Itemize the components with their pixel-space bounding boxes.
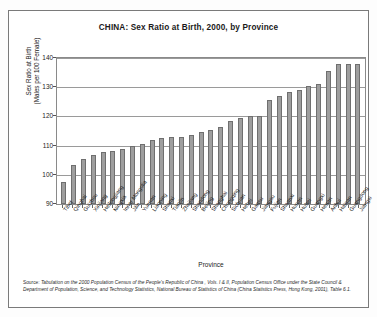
bar [336, 64, 341, 204]
x-axis-label-item: Yunnan [139, 207, 144, 257]
x-axis-label-item: Tianjin [169, 207, 174, 257]
y-axis-title: Sex Ratio at Birth (Males per 100 Female… [25, 11, 41, 131]
x-axis-label-item: Hebei [238, 207, 243, 257]
bar [61, 182, 66, 204]
bar [267, 100, 272, 204]
x-axis-label-item: Ningxia [110, 207, 115, 257]
x-axis-label-item: Shanghai [208, 207, 213, 257]
x-axis-label-item: Jilin [129, 207, 134, 257]
y-axis-title-line1: Sex Ratio at Birth [25, 11, 33, 131]
y-tick-mark-130 [53, 86, 56, 87]
bar [287, 92, 292, 204]
y-tick-mark-100 [53, 174, 56, 175]
x-axis-label-item: Beijing [198, 207, 203, 257]
bar [297, 90, 302, 204]
y-tick-label-90: 90 [40, 200, 53, 207]
x-axis-label-item: Zhejiang [179, 207, 184, 257]
y-tick-label-140: 140 [40, 54, 53, 61]
y-tick-label-110: 110 [40, 141, 53, 148]
chart-title: CHINA: Sex Ratio at Birth, 2000, by Prov… [9, 23, 368, 32]
x-axis-label-item: Jiangxi [356, 207, 361, 257]
y-tick-mark-90 [53, 203, 56, 204]
x-axis-label-item: Chongqing [218, 207, 223, 257]
x-axis-label-item: Sichuan [228, 207, 233, 257]
x-axis-label-item: Xinjiang [90, 207, 95, 257]
bar [355, 64, 360, 204]
bar [277, 96, 282, 204]
x-axis-label-item: Guangxi [307, 207, 312, 257]
x-axis-label-item: Hunan [287, 207, 292, 257]
source-note: Source: Tabulation on the 2000 Populatio… [23, 279, 359, 293]
y-tick-mark-120 [53, 115, 56, 116]
x-axis-label-item: Inner Mongolia [120, 207, 125, 257]
figure-frame: CHINA: Sex Ratio at Birth, 2000, by Prov… [8, 10, 369, 308]
source-label: Source: [23, 280, 40, 285]
x-axis-label-item: Guangdong [346, 207, 351, 257]
x-axis-label-item: Gansu [248, 207, 253, 257]
bar [248, 116, 253, 204]
bar [257, 116, 262, 204]
screenshot-root: CHINA: Sex Ratio at Birth, 2000, by Prov… [0, 0, 377, 317]
x-axis-title: Province [56, 261, 366, 268]
x-axis-label-item: Hainan [336, 207, 341, 257]
x-axis-label-item: Heilongjiang [100, 207, 105, 257]
x-axis-label-item: Tibet [60, 207, 65, 257]
bar [71, 165, 76, 204]
bar [316, 84, 321, 204]
plot-area [56, 57, 366, 205]
bar [140, 144, 145, 204]
x-axis-label-item: Shandong [189, 207, 194, 257]
x-axis-label-item: Hubei [297, 207, 302, 257]
y-tick-mark-140 [53, 57, 56, 58]
x-axis-label-item: Guizhou [80, 207, 85, 257]
y-tick-mark-110 [53, 145, 56, 146]
y-tick-label-120: 120 [40, 112, 53, 119]
y-tick-label-100: 100 [40, 170, 53, 177]
bar [346, 64, 351, 204]
bar [326, 71, 331, 204]
x-axis-labels: TibetQinghaiGuizhouXinjiangHeilongjiangN… [56, 207, 366, 257]
y-tick-label-130: 130 [40, 83, 53, 90]
bar [306, 86, 311, 204]
x-axis-label-item: Jiangsu [258, 207, 263, 257]
x-axis-label-item: Liaoning [149, 207, 154, 257]
x-axis-label-item: Shaanxi [277, 207, 282, 257]
x-axis-label-item: Shanxi [159, 207, 164, 257]
source-text: Tabulation on the 2000 Population Census… [23, 280, 351, 292]
bar-series [57, 58, 365, 204]
x-axis-label-item: Henan [317, 207, 322, 257]
x-axis-label-item: Qinghai [70, 207, 75, 257]
x-axis-label-item: Fujian [267, 207, 272, 257]
bar [179, 137, 184, 204]
x-axis-label-item: Anhui [327, 207, 332, 257]
